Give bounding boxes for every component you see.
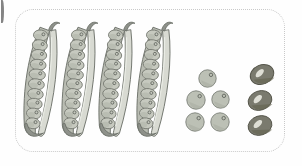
illustration-canvas [0, 0, 302, 166]
bean-1 [246, 60, 278, 89]
bean-2 [244, 86, 276, 115]
illustration-items [0, 0, 302, 166]
bean-group [0, 0, 302, 166]
bean-3 [244, 111, 275, 139]
